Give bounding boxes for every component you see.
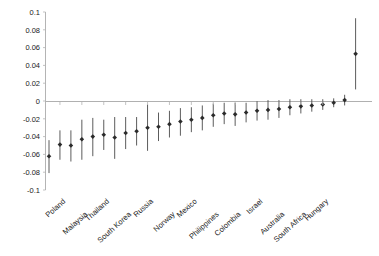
- y-tick-label: -0.1: [27, 186, 40, 195]
- y-tick-label: -0.08: [23, 168, 40, 177]
- chart-container: 0.10.080.060.040.020-0.02-0.04-0.06-0.08…: [0, 0, 379, 256]
- scatter-chart-with-error-bars: 0.10.080.060.040.020-0.02-0.04-0.06-0.08…: [0, 0, 379, 256]
- y-tick-label: 0.1: [30, 8, 40, 17]
- y-tick-label: -0.02: [23, 115, 40, 124]
- y-tick-label: 0: [36, 97, 40, 106]
- y-tick-label: -0.06: [23, 150, 40, 159]
- y-tick-label: 0.04: [25, 61, 40, 70]
- y-tick-label: -0.04: [23, 132, 40, 141]
- y-tick-label: 0.08: [25, 26, 40, 35]
- y-tick-label: 0.06: [25, 43, 40, 52]
- y-tick-label: 0.02: [25, 79, 40, 88]
- chart-background: [0, 0, 379, 256]
